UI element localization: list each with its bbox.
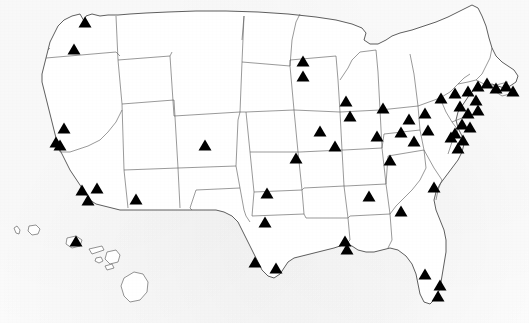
island-maui [105, 250, 120, 264]
us-map-figure [0, 0, 529, 323]
island-molokai [89, 246, 104, 254]
island-kahoolawe [105, 264, 114, 270]
island-hawaii [121, 272, 148, 302]
island-kauai [28, 225, 40, 235]
triangle-marker [472, 105, 485, 116]
island-lanai [95, 257, 103, 263]
island-niihau [14, 226, 20, 234]
hawaii-inset [14, 225, 148, 302]
us-map-svg [0, 0, 529, 323]
